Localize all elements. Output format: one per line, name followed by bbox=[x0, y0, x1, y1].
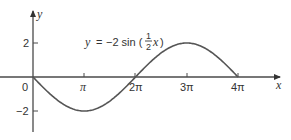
x-tick-label-pi: π bbox=[80, 80, 87, 94]
y-tick-label-2: 2 bbox=[23, 37, 29, 49]
svg-text:−2 sin (: −2 sin ( bbox=[106, 36, 143, 48]
y-axis-label: y bbox=[36, 7, 43, 21]
sine-graph: 0 π 2π 3π 4π 2 −2 y x y = −2 sin ( 1 2 x… bbox=[0, 0, 291, 140]
x-tick-label-2pi: 2π bbox=[129, 81, 143, 93]
x-tick-label-3pi: 3π bbox=[180, 81, 194, 93]
svg-text:y: y bbox=[84, 35, 91, 49]
svg-text:=: = bbox=[96, 36, 102, 48]
y-tick-label-neg2: −2 bbox=[16, 105, 29, 117]
svg-text:): ) bbox=[160, 36, 164, 48]
svg-text:1: 1 bbox=[146, 31, 151, 41]
svg-text:2: 2 bbox=[146, 42, 151, 52]
x-tick-label-4pi: 4π bbox=[231, 81, 245, 93]
svg-text:x: x bbox=[152, 35, 159, 49]
equation-label: y = −2 sin ( 1 2 x ) bbox=[84, 31, 164, 52]
x-axis-label: x bbox=[275, 78, 282, 92]
x-tick-label-0: 0 bbox=[22, 81, 28, 93]
